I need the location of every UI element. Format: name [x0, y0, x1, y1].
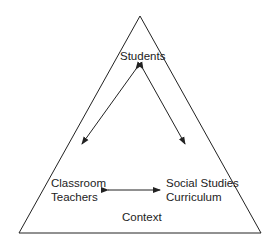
node-curriculum-line1: Social Studies	[166, 177, 239, 190]
node-students: Students	[120, 50, 165, 63]
node-teachers-line2: Teachers	[51, 191, 98, 204]
node-teachers-line1: Classroom	[51, 177, 106, 190]
context-label: Context	[122, 211, 162, 224]
arrow-students-curriculum	[143, 69, 185, 144]
node-curriculum-line2: Curriculum	[166, 191, 222, 204]
